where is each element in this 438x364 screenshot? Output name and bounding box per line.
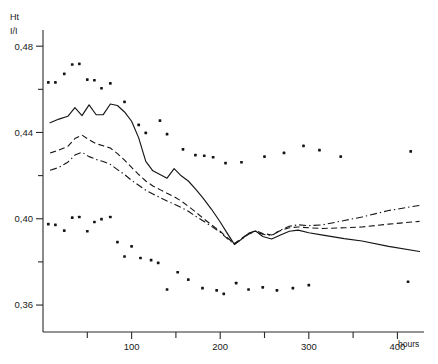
data-point [157, 262, 160, 265]
x-tick-label: 100 [124, 341, 140, 352]
data-point [78, 216, 81, 219]
data-point [100, 218, 103, 221]
data-point [54, 223, 57, 226]
data-point [166, 288, 169, 291]
data-point [283, 152, 286, 155]
data-point [235, 282, 238, 285]
data-point [71, 63, 74, 66]
data-point [240, 161, 243, 164]
data-point [150, 259, 153, 262]
data-point [137, 124, 140, 127]
data-point [307, 284, 310, 287]
data-point [203, 154, 206, 157]
data-point [86, 78, 89, 81]
data-point [182, 148, 185, 151]
data-point [86, 230, 89, 233]
data-point [78, 63, 81, 66]
data-point [224, 162, 227, 165]
x-tick-label: 200 [212, 341, 228, 352]
data-point [276, 289, 279, 292]
y-tick-label: 0,40 [15, 213, 34, 224]
data-point [116, 241, 119, 244]
data-point [302, 144, 305, 147]
chart-svg: Ht I/I 0,480,440,400,36 100200300400 hou… [0, 0, 438, 364]
y-axis-title-top: Ht [10, 12, 19, 22]
y-tick-label: 0,36 [15, 299, 34, 310]
data-point [194, 154, 197, 157]
data-point [139, 257, 142, 260]
x-axis-unit-label: hours [398, 339, 419, 349]
data-point [63, 229, 66, 232]
data-point [339, 155, 342, 158]
data-point [123, 255, 126, 258]
data-point [409, 150, 412, 153]
data-point [130, 245, 133, 248]
data-point [109, 216, 112, 219]
y-axis-title-bottom: I/I [10, 26, 18, 36]
data-point [201, 287, 204, 290]
data-point [93, 79, 96, 82]
data-point [215, 289, 218, 292]
data-point [176, 271, 179, 274]
y-tick-label: 0,44 [15, 127, 34, 138]
data-point [407, 280, 410, 283]
data-point [123, 100, 126, 103]
data-point [63, 72, 66, 75]
data-point [71, 216, 74, 219]
chart-background [0, 0, 438, 364]
data-point [187, 278, 190, 281]
data-point [292, 287, 295, 290]
data-point [263, 155, 266, 158]
data-point [247, 288, 250, 291]
data-point [212, 156, 215, 159]
data-point [54, 81, 57, 84]
y-tick-label: 0,48 [15, 41, 34, 52]
data-point [109, 82, 112, 85]
data-point [222, 292, 225, 295]
data-point [100, 87, 103, 90]
data-point [159, 119, 162, 122]
data-point [93, 221, 96, 224]
data-point [47, 223, 50, 226]
data-point [47, 81, 50, 84]
data-point [261, 286, 264, 289]
x-tick-label: 300 [301, 341, 317, 352]
data-point [144, 132, 147, 135]
data-point [166, 133, 169, 136]
data-point [318, 149, 321, 152]
